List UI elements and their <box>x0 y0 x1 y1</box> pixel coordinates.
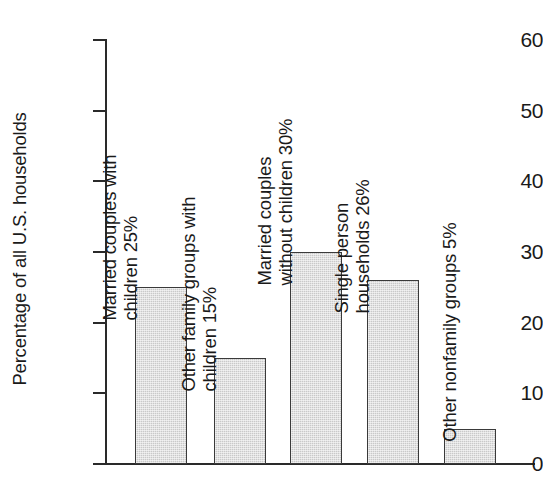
bar-label-single-person-households: Single personhouseholds 26% <box>332 180 373 314</box>
y-axis-tick <box>93 110 106 112</box>
y-axis-tick <box>93 39 106 41</box>
bar-label-other-family-groups-with-children: Other family groups withchildren 15% <box>179 197 220 392</box>
bar-label-line: children 15% <box>199 197 220 392</box>
y-axis-tick-label: 30 <box>457 241 543 262</box>
bar-label-married-couples-with-children: Married couples withchildren 25% <box>100 155 141 321</box>
y-axis-tick <box>93 463 106 465</box>
y-axis-title: Percentage of all U.S. households <box>0 0 40 498</box>
bar-label-line: households 26% <box>352 180 373 314</box>
y-axis-tick-label: 20 <box>457 312 543 333</box>
bar-other-family-groups-with-children <box>214 358 266 464</box>
bar-label-married-couples-without-children: Married coupleswithout children 30% <box>255 119 296 286</box>
y-axis-tick-label: 40 <box>457 170 543 191</box>
bar-label-line: Other nonfamily groups 5% <box>440 222 461 441</box>
bar-label-line: children 25% <box>120 155 141 321</box>
bar-label-line: without children 30% <box>275 119 296 286</box>
y-axis-tick-label: 60 <box>457 29 543 50</box>
bar-label-line: Other family groups with <box>179 197 200 392</box>
y-axis-tick-label: 50 <box>457 100 543 121</box>
bar-chart: Percentage of all U.S. households 605040… <box>0 0 543 498</box>
y-axis-tick-label: 10 <box>457 382 543 403</box>
bar-label-line: Single person <box>332 180 353 314</box>
y-axis-tick <box>93 392 106 394</box>
bar-single-person-households <box>367 280 419 464</box>
bar-label-line: Married couples with <box>100 155 121 321</box>
bar-label-line: Married couples <box>255 119 276 286</box>
bar-label-other-nonfamily-groups: Other nonfamily groups 5% <box>440 222 461 441</box>
y-axis-tick <box>93 322 106 324</box>
